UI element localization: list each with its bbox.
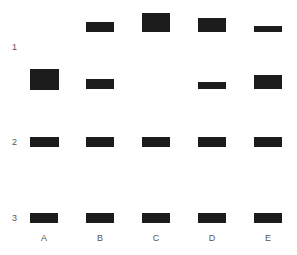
band-row3-b	[86, 213, 114, 223]
band-row1-d	[198, 18, 226, 32]
band-row2-d	[198, 137, 226, 147]
column-label-c: C	[142, 233, 170, 243]
band-row1-d	[198, 82, 226, 89]
band-row2-c	[142, 137, 170, 147]
band-row3-e	[254, 213, 282, 223]
band-row2-a	[30, 137, 59, 147]
band-row2-e	[254, 137, 282, 147]
column-label-b: B	[86, 233, 114, 243]
band-row3-d	[198, 213, 226, 223]
row-label-1: 1	[12, 42, 17, 52]
band-row1-c	[142, 13, 170, 32]
band-row3-a	[30, 213, 58, 223]
row-label-3: 3	[12, 213, 17, 223]
band-row1-b	[86, 22, 114, 32]
column-label-a: A	[30, 233, 58, 243]
band-row1-e	[254, 75, 282, 89]
column-label-e: E	[254, 233, 282, 243]
band-row2-b	[86, 137, 114, 147]
band-row1-e	[254, 26, 282, 32]
band-row1-b	[86, 79, 114, 89]
band-row1-a	[30, 69, 59, 90]
row-label-2: 2	[12, 137, 17, 147]
band-row3-c	[142, 213, 170, 223]
column-label-d: D	[198, 233, 226, 243]
